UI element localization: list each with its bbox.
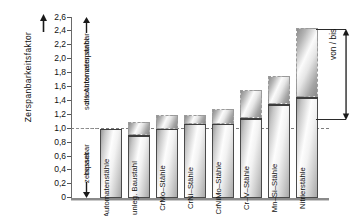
bar-range-crnimo-staehle xyxy=(212,109,234,124)
y-tick-label: 0,4 xyxy=(40,165,66,174)
bar-series: Automatenstähle unleg. Baustahl CrMo–Stä… xyxy=(71,17,329,198)
y-axis-ticks: 2,6 2,4 2,2 2,0 1,8 1,6 1,4 1,2 1,0 0,8 … xyxy=(40,10,66,206)
bar-range-mn-si-staehle xyxy=(268,76,290,104)
bar-cap-automatenstaehle xyxy=(100,129,122,131)
y-tick-label: 0,8 xyxy=(40,138,66,147)
y-tick-label: 2,0 xyxy=(40,54,66,63)
bar-crnimo-staehle[interactable]: CrNiMo–Stähle xyxy=(212,17,234,198)
bar-cap-unleg-baustahl xyxy=(128,135,150,137)
bar-range-nitrierstaehle xyxy=(296,28,318,98)
y-axis-label: Zerspanbarkeitsfaktor xyxy=(23,0,33,157)
y-tick-label: 0 xyxy=(40,193,66,202)
y-tick-label: 1,4 xyxy=(40,96,66,105)
y-tick-label: 1,0 xyxy=(40,124,66,133)
y-tick-label: 0,6 xyxy=(40,152,66,161)
bar-cap-crni-staehle xyxy=(184,124,206,126)
bar-label: CrNiMo–Stähle xyxy=(214,162,223,215)
bar-unleg-baustahl[interactable]: unleg. Baustahl xyxy=(128,17,150,198)
bar-range-unleg-baustahl xyxy=(128,122,150,136)
y-tick-label: 1,8 xyxy=(40,68,66,77)
range-marker-label: von / bis xyxy=(328,29,338,60)
bar-cap-crnimo-staehle xyxy=(212,124,234,126)
bar-range-cr-v-staehle xyxy=(240,90,262,118)
bar-crmo-staehle[interactable]: CrMo–Stähle xyxy=(156,17,178,198)
bar-cap-mn-si-staehle xyxy=(268,104,290,106)
bar-mn-si-staehle[interactable]: Mn–Si–Stähle xyxy=(268,17,290,198)
bar-label: Cr–V–Stähle xyxy=(242,166,251,210)
bar-label: unleg. Baustahl xyxy=(130,161,139,215)
bar-label: Automatenstähle xyxy=(102,159,111,216)
bar-range-crmo-staehle xyxy=(156,115,178,129)
bar-cr-v-staehle[interactable]: Cr–V–Stähle xyxy=(240,17,262,198)
y-tick-label: 2,6 xyxy=(40,13,66,22)
bar-cap-cr-v-staehle xyxy=(240,118,262,120)
y-tick-label: 1,2 xyxy=(40,110,66,119)
y-tick-label: 1,6 xyxy=(40,82,66,91)
bar-cap-crmo-staehle xyxy=(156,129,178,131)
bar-label: Mn–Si–Stähle xyxy=(270,164,279,212)
range-marker-double-arrow-icon xyxy=(342,29,350,124)
bar-label: CrNi–Stähle xyxy=(186,167,195,209)
y-tick-label: 0,2 xyxy=(40,179,66,188)
bar-cap-nitrierstaehle xyxy=(296,97,318,99)
bar-label: Nitrierstähle xyxy=(298,167,307,209)
y-tick-label: 2,4 xyxy=(40,26,66,35)
bar-automatenstaehle[interactable]: Automatenstähle xyxy=(100,17,122,198)
range-marker-von-bis: von / bis xyxy=(316,24,350,128)
bar-range-crni-staehle xyxy=(184,115,206,124)
bar-label: CrMo–Stähle xyxy=(158,165,167,210)
bar-nitrierstaehle[interactable]: Nitrierstähle xyxy=(296,17,318,198)
bar-crni-staehle[interactable]: CrNi–Stähle xyxy=(184,17,206,198)
chart-root: Zerspanbarkeitsfaktor 2,6 2,4 2,2 2,0 1,… xyxy=(0,0,351,216)
y-tick-label: 2,2 xyxy=(40,40,66,49)
